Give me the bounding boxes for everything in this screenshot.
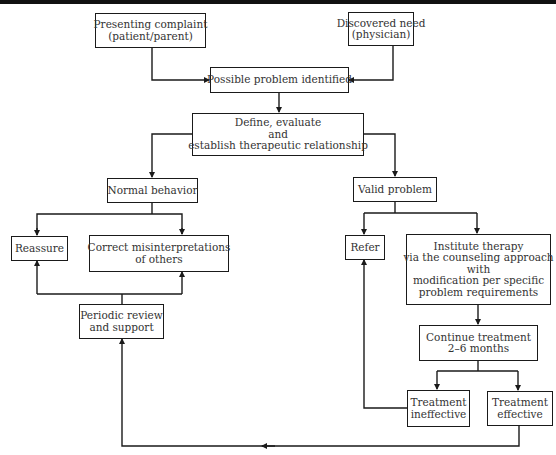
node-institute-therapy: Institute therapy via the counseling app… (406, 234, 551, 305)
node-normal-behavior: Normal behavior (107, 178, 198, 203)
node-text: Refer (350, 242, 379, 254)
node-text: and support (89, 322, 153, 334)
node-valid-problem: Valid problem (353, 177, 437, 202)
node-text: Correct misinterpretations (88, 242, 231, 254)
node-text: 2–6 months (448, 343, 509, 355)
node-text: Reassure (15, 243, 64, 255)
node-define-evaluate: Define, evaluate and establish therapeut… (192, 113, 364, 156)
node-text: of others (135, 254, 182, 266)
node-possible-problem: Possible problem identified (210, 67, 349, 93)
node-text: Normal behavior (107, 185, 197, 197)
node-text: Treatment (492, 397, 548, 409)
node-continue-treatment: Continue treatment 2–6 months (419, 325, 538, 361)
node-text: Presenting complaint (94, 19, 208, 31)
node-text: Possible problem identified (207, 74, 352, 86)
node-reassure: Reassure (11, 236, 68, 261)
node-text: problem requirements (419, 287, 539, 299)
node-discovered-need: Discovered need (physician) (348, 12, 414, 46)
node-text: Valid problem (358, 184, 432, 196)
node-refer: Refer (345, 235, 385, 260)
node-text: Treatment (411, 397, 467, 409)
node-correct-misinterpretations: Correct misinterpretations of others (89, 235, 229, 272)
node-text: (patient/parent) (108, 31, 193, 43)
node-text: ineffective (411, 409, 467, 421)
node-text: establish therapeutic relationship (188, 140, 368, 152)
node-treatment-ineffective: Treatment ineffective (407, 390, 470, 427)
node-text: (physician) (352, 29, 411, 41)
node-periodic-review: Periodic review and support (79, 304, 164, 339)
node-presenting-complaint: Presenting complaint (patient/parent) (95, 13, 206, 48)
node-treatment-effective: Treatment effective (487, 391, 553, 426)
node-text: Periodic review (80, 310, 163, 322)
node-text: effective (497, 409, 543, 421)
